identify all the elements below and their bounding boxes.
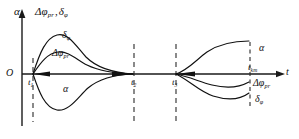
right-transient-curves <box>176 41 249 99</box>
time-marker-label-tkm: tkm <box>248 63 257 72</box>
time-marker-label-t2: t2 <box>131 78 137 87</box>
y-axis-label: α Δφpr,δφ <box>14 6 68 17</box>
y-axis-group <box>19 9 26 126</box>
y-axis-label-delta-phi-pr-subscript: pr <box>48 11 54 18</box>
curve-label-delta-phi-right-symbol: δ <box>255 93 260 104</box>
curve-label-delta-phi-pr-right: Δφpr <box>253 78 270 88</box>
curve-delta-phi-left <box>33 35 133 74</box>
origin-label: O <box>6 68 13 78</box>
curve-label-delta-phi-pr-left: Δφpr <box>52 48 69 58</box>
y-axis-label-alpha: α <box>14 5 20 17</box>
time-marker-t2-subscript: 2 <box>134 82 137 88</box>
curve-delta-phi-pr-left <box>33 52 133 74</box>
transient-response-figure: α Δφpr,δφ O t t1 t2 t3 tkm δφ Δφpr α α Δ… <box>0 0 299 139</box>
divergence-spike-t1 <box>33 72 50 77</box>
curve-alpha-left <box>33 74 133 110</box>
x-axis-group <box>22 71 285 77</box>
curve-label-alpha-right: α <box>259 43 264 53</box>
y-axis-label-delta-phi-pr: Δφ <box>35 5 48 17</box>
convergence-spike-t2 <box>112 71 133 76</box>
y-axis-label-delta-phi-subscript: φ <box>64 11 68 18</box>
time-marker-label-t3: t3 <box>172 78 178 87</box>
curve-label-delta-phi-pr-right-symbol: Δφ <box>253 77 264 88</box>
curve-label-delta-phi-right: δφ <box>255 94 263 104</box>
time-marker-label-t1: t1 <box>28 78 34 87</box>
curve-alpha-right <box>176 41 249 74</box>
x-axis-arrowhead <box>276 71 285 77</box>
curve-label-delta-phi-left: δφ <box>62 30 70 40</box>
time-marker-t3-subscript: 3 <box>175 82 178 88</box>
curve-label-alpha-left: α <box>63 84 68 94</box>
curve-label-delta-phi-pr-right-subscript: pr <box>264 82 270 89</box>
curve-label-delta-phi-left-symbol: δ <box>62 29 67 40</box>
curve-label-delta-phi-pr-left-subscript: pr <box>63 52 69 59</box>
curve-label-delta-phi-pr-left-symbol: Δφ <box>52 47 63 58</box>
time-marker-tkm-subscript: km <box>251 67 258 73</box>
curve-label-delta-phi-left-subscript: φ <box>67 34 71 41</box>
x-axis-label: t <box>286 67 289 77</box>
curve-label-delta-phi-right-subscript: φ <box>260 98 264 105</box>
time-marker-t1-subscript: 1 <box>31 82 34 88</box>
left-transient-curves <box>33 35 133 111</box>
